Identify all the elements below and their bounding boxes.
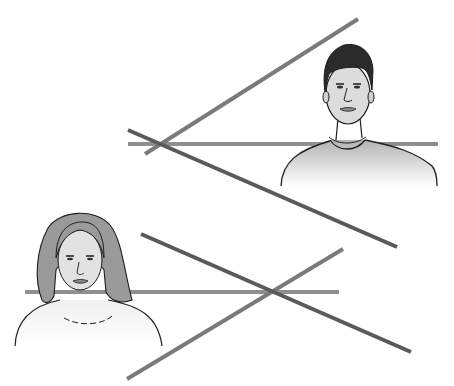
man-figure [280,44,438,186]
woman-figure [14,213,162,346]
upper-lines [128,19,438,247]
illustration-canvas [0,0,454,386]
rising-line [127,249,343,379]
